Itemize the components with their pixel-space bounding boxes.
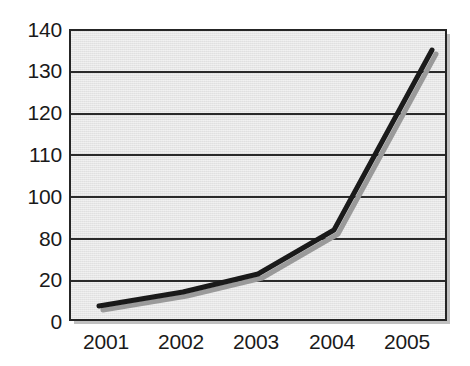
y-tick-label: 140 [0,19,62,40]
x-tick-label: 2003 [233,330,279,354]
y-tick-label: 80 [0,228,62,249]
plot-area [69,29,447,321]
series-shadow-line [103,54,436,310]
y-tick-label: 20 [0,269,62,290]
x-tick-label: 2002 [158,330,204,354]
y-tick-label: 110 [0,144,62,165]
x-tick-label: 2004 [309,330,355,354]
x-tick-label: 2005 [384,330,430,354]
y-tick-label: 120 [0,102,62,123]
series-line [99,50,432,306]
data-series-layer [71,31,445,319]
line-chart-figure: 140 130 120 110 100 80 20 0 2001 2002 20… [0,0,470,366]
y-tick-label: 0 [0,311,62,332]
y-axis-tick-labels: 140 130 120 110 100 80 20 0 [0,0,62,366]
x-tick-label: 2001 [83,330,129,354]
x-axis-tick-labels: 2001 2002 2003 2004 2005 [0,330,470,360]
y-tick-label: 130 [0,60,62,81]
y-tick-label: 100 [0,186,62,207]
